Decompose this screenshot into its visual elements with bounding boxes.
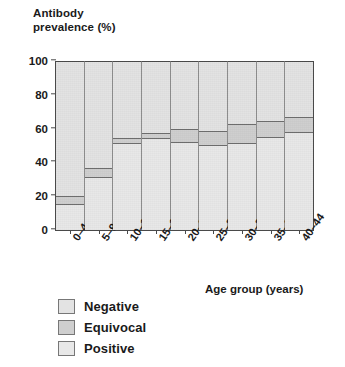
chart-figure: Antibody prevalence (%) 0–45–910–1415–19… (0, 0, 345, 367)
x-axis-title: Age group (years) (205, 283, 303, 295)
legend-item: Equivocal (58, 317, 146, 338)
bar-column: 25–29 (199, 61, 228, 230)
bar-column: 20–24 (171, 61, 200, 230)
bar-column: 35–39 (257, 61, 286, 230)
bar-segment-positive (257, 138, 285, 230)
bar-segment-negative (285, 62, 313, 117)
y-tick-mark (51, 127, 56, 128)
y-tick-label: 60 (35, 123, 48, 135)
bar-segment-negative (228, 62, 256, 124)
y-tick-label: 0 (42, 224, 48, 236)
legend-item-label: Equivocal (84, 320, 146, 335)
y-tick-mark (51, 59, 56, 60)
legend-item: Positive (58, 338, 146, 359)
bar-segment-equivocal (113, 138, 141, 145)
legend-swatch-icon (58, 341, 75, 356)
legend-swatch-icon (58, 320, 75, 335)
bar-segment-equivocal (142, 133, 170, 140)
bar-segment-negative (56, 62, 84, 196)
bar-segment-negative (113, 62, 141, 138)
y-tick-mark (51, 93, 56, 94)
bar-column: 10–14 (113, 61, 142, 230)
bar-segment-equivocal (285, 117, 313, 132)
bar-segment-equivocal (56, 196, 84, 204)
bar-column: 15–19 (142, 61, 171, 230)
y-tick-label: 100 (29, 55, 48, 67)
bar-segment-positive (228, 144, 256, 230)
legend-swatch-icon (58, 299, 75, 314)
y-tick-label: 40 (35, 156, 48, 168)
bar-segment-negative (199, 62, 227, 131)
legend-item-label: Negative (84, 299, 139, 314)
bar-segment-positive (285, 133, 313, 230)
chart-legend: NegativeEquivocalPositive (58, 296, 146, 359)
bar-column: 30–34 (228, 61, 257, 230)
legend-item-label: Positive (84, 341, 135, 356)
bar-column: 40–44 (285, 61, 314, 230)
bar-segment-equivocal (257, 121, 285, 138)
bar-segment-positive (199, 146, 227, 230)
bar-segment-negative (142, 62, 170, 133)
y-tick-label: 80 (35, 89, 48, 101)
bar-segment-positive (171, 143, 199, 230)
bar-segment-equivocal (171, 129, 199, 142)
bar-segment-negative (85, 62, 113, 168)
bar-column: 0–4 (56, 61, 85, 230)
bar-column: 5–9 (85, 61, 114, 230)
y-tick-mark (51, 195, 56, 196)
y-tick-mark (51, 161, 56, 162)
bar-segment-negative (171, 62, 199, 129)
plot-area: 0–45–910–1415–1920–2425–2930–3435–3940–4… (55, 61, 314, 231)
bar-segment-positive (113, 144, 141, 230)
y-axis-title: Antibody prevalence (%) (33, 6, 116, 34)
bar-group: 0–45–910–1415–1920–2425–2930–3435–3940–4… (56, 61, 314, 230)
bar-segment-negative (257, 62, 285, 121)
bar-segment-equivocal (199, 131, 227, 146)
legend-item: Negative (58, 296, 146, 317)
y-tick-label: 20 (35, 190, 48, 202)
y-tick-mark (51, 228, 56, 229)
bar-segment-equivocal (85, 168, 113, 178)
bar-segment-positive (142, 139, 170, 230)
bar-segment-equivocal (228, 124, 256, 144)
